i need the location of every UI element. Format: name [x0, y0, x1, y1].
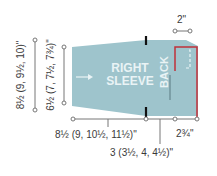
- dim-endpoint: [33, 108, 37, 112]
- dim-endpoint: [62, 101, 66, 105]
- bottom-length-label: 8½ (9, 10½, 11½)": [55, 130, 137, 140]
- inner-height-label: 6½ (7, 7½, 7¾)": [46, 30, 56, 120]
- dim-endpoint: [71, 117, 75, 121]
- dim-endpoint: [62, 45, 66, 49]
- dim-endpoint: [188, 29, 192, 33]
- dim-endpoint: [144, 117, 148, 121]
- piece-label-line2: SLEEVE: [100, 75, 160, 88]
- dim-endpoint: [173, 29, 177, 33]
- corner-width-label: 2¾": [176, 129, 193, 139]
- back-length-label: 3 (3½, 4, 4½)": [110, 148, 173, 158]
- dim-endpoint: [173, 117, 177, 121]
- dim-endpoint: [33, 38, 37, 42]
- outer-height-label: 8½ (9, 9½, 10)": [16, 30, 26, 120]
- dim-endpoint: [195, 117, 199, 121]
- back-label: BACK: [158, 52, 170, 92]
- top-width-label: 2": [177, 15, 186, 25]
- piece-label: RIGHT SLEEVE: [100, 62, 160, 88]
